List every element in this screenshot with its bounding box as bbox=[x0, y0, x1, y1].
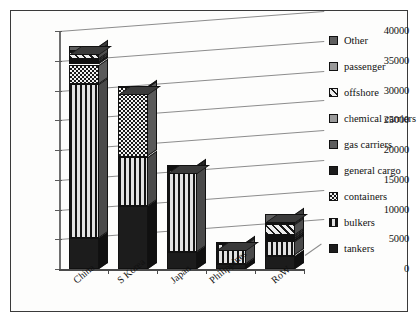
legend-swatch-containers-icon bbox=[329, 192, 338, 201]
x-tick bbox=[157, 269, 158, 274]
legend-item-containers[interactable]: containers bbox=[329, 189, 387, 203]
segment-side bbox=[148, 150, 157, 205]
legend-swatch-chemical-carriers-icon bbox=[329, 114, 338, 123]
legend-item-other[interactable]: Other bbox=[329, 33, 368, 47]
y-tick bbox=[55, 120, 62, 121]
segment-side bbox=[99, 77, 108, 238]
x-tick bbox=[206, 269, 207, 274]
legend-label: offshore bbox=[344, 87, 379, 98]
y-tick bbox=[55, 150, 62, 151]
legend-label: gas carriers bbox=[344, 139, 392, 150]
legend-item-general-cargo[interactable]: general cargo bbox=[329, 163, 401, 177]
segment-chemical-carriers bbox=[265, 235, 295, 237]
y-axis-label: 10000 bbox=[367, 205, 409, 215]
segment-gas-carriers bbox=[265, 237, 295, 239]
legend-swatch-other-icon bbox=[329, 36, 338, 45]
gridline bbox=[59, 11, 324, 32]
legend-item-gas-carriers[interactable]: gas carriers bbox=[329, 137, 392, 151]
plot-area: 40000 35000 30000 25000 20000 15000 1000… bbox=[11, 11, 409, 313]
legend-label: chemical carriers bbox=[344, 113, 416, 124]
legend-item-offshore[interactable]: offshore bbox=[329, 85, 379, 99]
legend-swatch-offshore-icon bbox=[329, 88, 338, 97]
y-axis-label: 0 bbox=[367, 264, 409, 274]
legend-label: general cargo bbox=[344, 165, 401, 176]
legend-swatch-tankers-icon bbox=[329, 244, 338, 253]
legend-item-passenger[interactable]: passenger bbox=[329, 59, 385, 73]
segment-side bbox=[148, 199, 157, 269]
x-tick bbox=[255, 269, 256, 274]
y-tick bbox=[55, 180, 62, 181]
y-tick bbox=[55, 210, 62, 211]
y-tick bbox=[55, 91, 62, 92]
segment-general-cargo bbox=[265, 239, 295, 241]
legend-swatch-passenger-icon bbox=[329, 62, 338, 71]
legend-item-chemical-carriers[interactable]: chemical carriers bbox=[329, 111, 416, 125]
legend-label: bulkers bbox=[344, 217, 375, 228]
y-axis-label: 40000 bbox=[367, 26, 409, 36]
segment-bulkers bbox=[118, 157, 148, 206]
segment-side bbox=[197, 164, 206, 252]
segment-chemical-carriers bbox=[69, 59, 99, 61]
segment-bulkers bbox=[69, 84, 99, 238]
legend-label: Other bbox=[344, 35, 368, 46]
y-tick bbox=[55, 239, 62, 240]
legend-label: tankers bbox=[344, 243, 374, 254]
legend-swatch-general-cargo-icon bbox=[329, 166, 338, 175]
y-tick bbox=[55, 61, 62, 62]
legend-item-tankers[interactable]: tankers bbox=[329, 241, 374, 255]
x-tick bbox=[108, 269, 109, 274]
segment-containers bbox=[69, 65, 99, 84]
segment-containers bbox=[118, 87, 148, 156]
y-tick bbox=[55, 31, 62, 32]
legend-swatch-gas-carriers-icon bbox=[329, 140, 338, 149]
chart-container: 40000 35000 30000 25000 20000 15000 1000… bbox=[10, 10, 408, 312]
legend-item-bulkers[interactable]: bulkers bbox=[329, 215, 375, 229]
segment-gas-carriers bbox=[69, 61, 99, 63]
segment-passenger bbox=[265, 223, 295, 225]
floor-depth-edge bbox=[305, 244, 322, 256]
segment-bulkers bbox=[167, 170, 197, 252]
segment-bulkers bbox=[265, 241, 295, 255]
legend-swatch-bulkers-icon bbox=[329, 218, 338, 227]
legend-label: passenger bbox=[344, 61, 385, 72]
legend-label: containers bbox=[344, 191, 387, 202]
x-tick bbox=[304, 269, 305, 274]
segment-offshore bbox=[265, 224, 295, 235]
